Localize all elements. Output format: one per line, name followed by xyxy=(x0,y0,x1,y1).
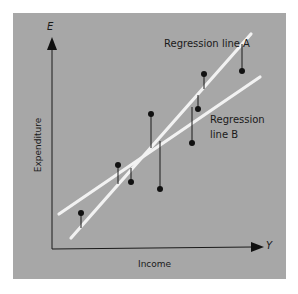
x-axis-title: Income xyxy=(138,259,171,269)
y-axis-symbol: E xyxy=(47,21,53,32)
data-point xyxy=(148,111,154,117)
data-point xyxy=(195,106,201,112)
data-points xyxy=(78,68,245,216)
y-axis-arrow-icon xyxy=(47,37,57,50)
x-axis-arrow-icon xyxy=(251,242,264,252)
data-point xyxy=(239,68,245,74)
data-point xyxy=(115,162,121,168)
data-point xyxy=(78,210,84,216)
plot-area xyxy=(0,0,298,294)
regression-line-a-label: Regression line A xyxy=(164,36,250,51)
data-point xyxy=(128,179,134,185)
regression-line-b-label-1: Regression xyxy=(210,112,265,127)
data-point xyxy=(201,71,207,77)
regression-line-b-label-2: line B xyxy=(210,127,238,142)
x-axis-symbol: Y xyxy=(266,240,272,251)
y-axis-title: Expenditure xyxy=(33,115,43,175)
data-point xyxy=(189,140,195,146)
x-axis xyxy=(52,247,252,249)
data-point xyxy=(157,186,163,192)
